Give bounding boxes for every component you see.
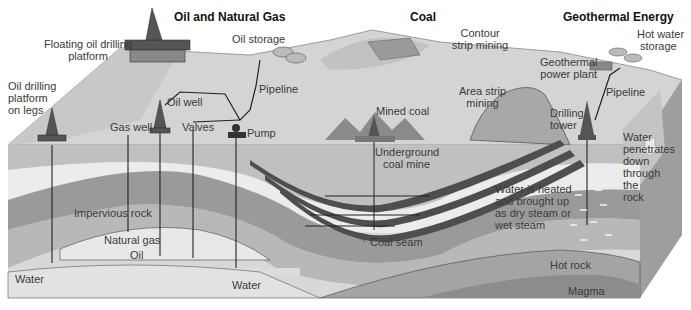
label-water-heated: Water is heated and brought up as dry st… — [495, 183, 572, 231]
label-oil: Oil — [130, 249, 143, 261]
label-pipeline-geo: Pipeline — [606, 86, 645, 98]
label-water-left: Water — [15, 273, 44, 285]
label-gas-well: Gas well — [110, 121, 152, 133]
energy-resources-diagram: Oil and Natural Gas Coal Geothermal Ener… — [0, 0, 691, 310]
label-coal-seam: Coal seam — [370, 236, 423, 248]
label-drilling-tower: Drilling tower — [550, 107, 584, 131]
label-oil-well: Oil well — [167, 96, 202, 108]
label-hot-rock: Hot rock — [550, 259, 591, 271]
label-underground-coal-mine: Underground coal mine — [375, 146, 439, 170]
label-floating-platform: Floating oil drilling platform — [44, 38, 132, 62]
label-area-strip-mining: Area strip mining — [459, 85, 506, 109]
header-oil-gas: Oil and Natural Gas — [174, 10, 285, 24]
label-magma: Magma — [568, 285, 605, 297]
label-pump: Pump — [247, 127, 276, 139]
label-mined-coal: Mined coal — [376, 105, 429, 117]
label-valves: Valves — [182, 121, 214, 133]
label-hot-water-storage: Hot water storage — [637, 28, 684, 52]
label-geothermal-power-plant: Geothermal power plant — [540, 56, 597, 80]
label-oil-storage: Oil storage — [232, 33, 285, 45]
label-water-mid: Water — [232, 279, 261, 291]
label-contour-strip-mining: Contour strip mining — [452, 27, 508, 51]
label-water-penetrates: Water penetrates down through the rock — [623, 131, 675, 203]
label-platform-on-legs: Oil drilling platform on legs — [8, 80, 56, 116]
label-pipeline-oil: Pipeline — [259, 83, 298, 95]
header-geothermal: Geothermal Energy — [563, 10, 674, 24]
label-natural-gas: Natural gas — [104, 234, 160, 246]
header-coal: Coal — [410, 10, 436, 24]
label-impervious-rock: Impervious rock — [74, 207, 152, 219]
